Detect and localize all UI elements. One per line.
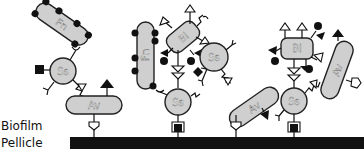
svg-text:Ss: Ss bbox=[172, 97, 184, 108]
svg-text:Bl: Bl bbox=[292, 43, 302, 54]
svg-text:Fn: Fn bbox=[140, 49, 151, 61]
svg-text:Ss: Ss bbox=[57, 66, 69, 77]
group-1: Fn Ss Av bbox=[29, 0, 122, 137]
coaggregation-diagram: Biofilm Pellicle Fn Ss Av bbox=[0, 0, 364, 154]
biofilm-label: Biofilm bbox=[1, 119, 43, 133]
svg-text:Ss: Ss bbox=[208, 52, 220, 63]
fn-cell-1: Fn bbox=[29, 0, 95, 52]
svg-text:Ss: Ss bbox=[288, 96, 300, 107]
pellicle-label: Pellicle bbox=[1, 136, 43, 150]
group-3: Bl Ss Av bbox=[268, 22, 361, 137]
pellicle-bar bbox=[70, 137, 364, 149]
diagram-svg: Biofilm Pellicle Fn Ss Av bbox=[0, 0, 364, 154]
group-2: Fn Bl Ss bbox=[132, 5, 283, 137]
av-cell-3: Av bbox=[318, 39, 355, 102]
svg-text:Av: Av bbox=[88, 100, 100, 111]
